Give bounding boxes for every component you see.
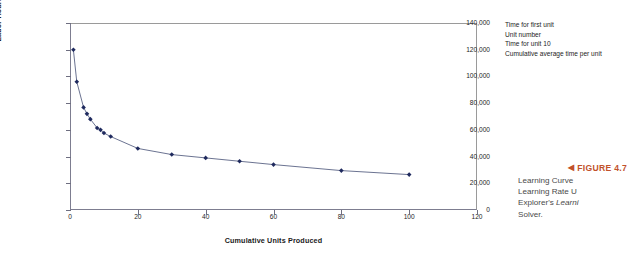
x-tick-mark [206, 210, 207, 215]
data-point [136, 146, 141, 151]
series-markers [71, 47, 411, 176]
x-tick-mark [341, 210, 342, 215]
annotation-line: Cumulative average time per unit [505, 49, 602, 59]
annotation-line: Time for unit 10 [505, 39, 602, 49]
data-point [407, 172, 412, 177]
caption-line: Learning Curve [518, 175, 627, 186]
caption-text: Explorer's [518, 198, 556, 207]
x-tick-mark [409, 210, 410, 215]
x-tick-mark [274, 210, 275, 215]
y-tick-mark [66, 210, 71, 211]
figure-heading: ◀FIGURE 4.7 [505, 163, 627, 173]
data-point [203, 156, 208, 161]
x-tick-mark [138, 210, 139, 215]
y-axis-title: Labor Hours per Unit [0, 0, 3, 74]
figure-caption-body: Learning Curve Learning Rate U Explorer'… [518, 175, 627, 220]
figure-number: FIGURE 4.7 [577, 163, 627, 173]
data-series [70, 23, 477, 210]
x-tick-label: 0 [50, 214, 90, 221]
left-triangle-icon: ◀ [568, 163, 574, 172]
data-point [108, 134, 113, 139]
data-point [339, 168, 344, 173]
data-point [169, 152, 174, 157]
data-point [74, 79, 79, 84]
caption-line: Learning Rate U [518, 186, 627, 197]
annotation-line: Unit number [505, 30, 602, 40]
chart-container: Labor Hours per Unit Cumulative Units Pr… [0, 0, 490, 261]
data-point [85, 112, 90, 117]
caption-italic: Learni [556, 198, 579, 207]
figure-caption: ◀FIGURE 4.7 Learning Curve Learning Rate… [505, 163, 627, 220]
data-point [71, 47, 76, 52]
annotation-line: Time for first unit [505, 20, 602, 30]
annotation-label-list: Time for first unit Unit number Time for… [505, 20, 602, 58]
data-point [237, 159, 242, 164]
data-point [81, 105, 86, 110]
caption-line: Solver. [518, 209, 627, 220]
x-tick-mark [477, 210, 478, 215]
series-line [73, 50, 409, 175]
caption-line: Explorer's Learni [518, 197, 627, 208]
data-point [271, 162, 276, 167]
x-axis-title: Cumulative Units Produced [70, 236, 477, 245]
